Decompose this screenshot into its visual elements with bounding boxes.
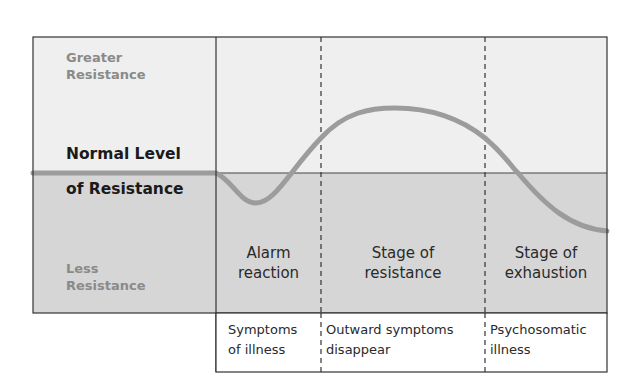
outcome-line: illness <box>490 340 587 360</box>
stage-name-line: Alarm <box>216 243 321 263</box>
stage-resistance: Stage of resistance <box>321 243 485 283</box>
stage-name-line: Stage of <box>321 243 485 263</box>
outcome-alarm: Symptoms of illness <box>228 320 297 360</box>
greater-resistance-label: Greater Resistance <box>66 49 146 83</box>
normal-level-label-line-2: of Resistance <box>66 180 184 198</box>
normal-level-label-line-1: Normal Level <box>66 145 181 163</box>
less-resistance-line-2: Resistance <box>66 277 146 294</box>
greater-resistance-line-2: Resistance <box>66 66 146 83</box>
outcome-line: disappear <box>326 340 454 360</box>
outcome-line: Symptoms <box>228 320 297 340</box>
greater-resistance-line-1: Greater <box>66 49 146 66</box>
less-resistance-line-1: Less <box>66 260 146 277</box>
stage-name-line: exhaustion <box>485 263 607 283</box>
less-resistance-label: Less Resistance <box>66 260 146 294</box>
stage-name-line: resistance <box>321 263 485 283</box>
stage-exhaustion: Stage of exhaustion <box>485 243 607 283</box>
outcome-line: Psychosomatic <box>490 320 587 340</box>
outcome-line: Outward symptoms <box>326 320 454 340</box>
outcome-line: of illness <box>228 340 297 360</box>
stage-name-line: reaction <box>216 263 321 283</box>
stage-alarm-reaction: Alarm reaction <box>216 243 321 283</box>
outcome-resistance: Outward symptoms disappear <box>326 320 454 360</box>
outcome-exhaustion: Psychosomatic illness <box>490 320 587 360</box>
stage-name-line: Stage of <box>485 243 607 263</box>
